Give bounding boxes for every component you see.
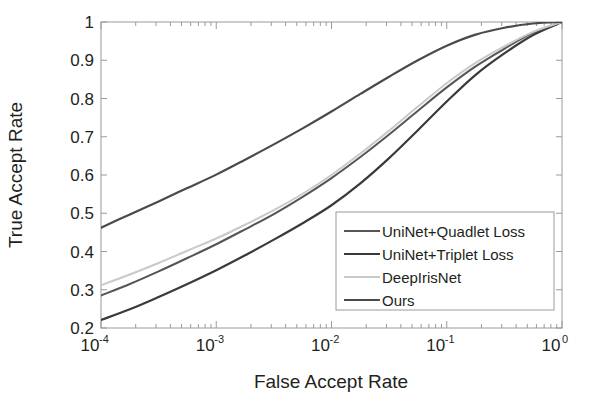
y-tick-label: 0.5 <box>70 204 94 223</box>
x-tick-exponent: -4 <box>99 333 109 345</box>
y-tick-label: 0.6 <box>70 166 94 185</box>
y-tick-label: 0.3 <box>70 281 94 300</box>
legend-label: UniNet+Triplet Loss <box>382 246 514 263</box>
x-tick-exponent: -2 <box>330 333 340 345</box>
y-axis-title: True Accept Rate <box>5 102 26 248</box>
x-tick-mantissa: 10 <box>542 336 561 355</box>
x-axis-title: False Accept Rate <box>254 371 408 392</box>
x-tick-mantissa: 10 <box>311 336 330 355</box>
x-tick-exponent: -3 <box>214 333 224 345</box>
legend-label: Ours <box>382 292 415 309</box>
x-tick-exponent: 0 <box>562 333 568 345</box>
y-tick-label: 0.7 <box>70 128 94 147</box>
legend-label: DeepIrisNet <box>382 269 462 286</box>
y-tick-label: 0.9 <box>70 51 94 70</box>
legend-label: UniNet+Quadlet Loss <box>382 223 525 240</box>
y-tick-label: 0.8 <box>70 90 94 109</box>
y-tick-label: 0.4 <box>70 243 94 262</box>
x-tick-mantissa: 10 <box>426 336 445 355</box>
x-tick-exponent: -1 <box>445 333 455 345</box>
x-tick-mantissa: 10 <box>81 336 100 355</box>
y-tick-label: 1 <box>85 13 94 32</box>
y-axis-tick-labels: 0.20.30.40.50.60.70.80.91 <box>70 13 94 338</box>
legend: UniNet+Quadlet LossUniNet+Triplet LossDe… <box>336 212 554 310</box>
roc-curve-chart: 10-410-310-210-1100 0.20.30.40.50.60.70.… <box>0 0 592 412</box>
x-tick-mantissa: 10 <box>196 336 215 355</box>
y-tick-label: 0.2 <box>70 319 94 338</box>
